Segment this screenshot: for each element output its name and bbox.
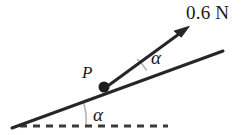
- force-diagram-figure: 0.6 N P α α: [0, 0, 250, 135]
- angle-arc-lower: [84, 102, 87, 126]
- point-label-p: P: [82, 64, 92, 81]
- point-dot: [99, 82, 110, 93]
- angle-label-lower-alpha: α: [93, 105, 103, 124]
- force-magnitude-label: 0.6 N: [186, 3, 229, 22]
- angle-label-upper-alpha: α: [151, 48, 161, 67]
- inclined-plane-line: [12, 51, 223, 128]
